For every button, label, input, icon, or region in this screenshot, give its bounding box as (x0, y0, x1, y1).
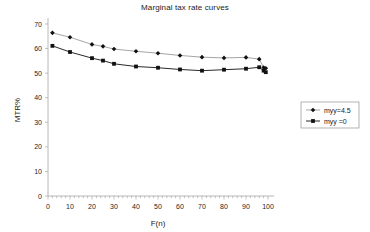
x-tick-label: 70 (198, 203, 206, 210)
chart-figure: Marginal tax rate curves 010203040506070… (0, 0, 370, 232)
legend-swatch-marker (311, 119, 315, 123)
y-axis-title: MTR% (13, 98, 22, 122)
data-point (244, 67, 248, 71)
data-point (257, 57, 262, 62)
x-tick-label: 40 (132, 203, 140, 210)
data-point (222, 68, 226, 72)
x-tick-label: 60 (176, 203, 184, 210)
x-tick-label: 80 (220, 203, 228, 210)
data-point (178, 53, 183, 58)
data-point (134, 65, 138, 69)
data-point (264, 70, 268, 74)
data-point (112, 47, 117, 52)
y-tick-label: 10 (34, 168, 42, 175)
y-tick-label: 70 (34, 21, 42, 28)
data-point (200, 69, 204, 73)
series-2 (51, 44, 268, 74)
x-tick-label: 100 (262, 203, 274, 210)
legend-label: myy =0 (324, 118, 347, 126)
y-tick-label: 50 (34, 70, 42, 77)
x-tick-label: 20 (88, 203, 96, 210)
x-tick-label: 30 (110, 203, 118, 210)
y-axis-title-text: MTR% (13, 98, 22, 122)
data-point (134, 49, 139, 54)
data-point (156, 51, 161, 56)
data-point (90, 56, 94, 60)
data-point (156, 66, 160, 70)
x-tick-label: 50 (154, 203, 162, 210)
data-point (101, 59, 105, 63)
data-point (200, 55, 205, 60)
y-tick-label: 0 (38, 193, 42, 200)
plot-canvas: 0102030405060700102030405060708090100F(n… (0, 0, 370, 232)
data-point (178, 68, 182, 72)
data-point (90, 42, 95, 47)
legend-label: myy=4.5 (324, 107, 351, 115)
data-point (51, 44, 55, 48)
x-axis-title: F(n) (151, 219, 166, 228)
data-point (68, 50, 72, 54)
data-point (222, 56, 227, 61)
series-line-1 (52, 33, 265, 68)
x-tick-label: 0 (46, 203, 50, 210)
legend-layer: myy=4.5myy =0 (301, 102, 359, 128)
x-tick-label: 10 (66, 203, 74, 210)
data-point (257, 65, 261, 69)
series-layer (50, 31, 268, 75)
x-tick-label: 90 (242, 203, 250, 210)
data-point (68, 35, 73, 40)
y-tick-label: 20 (34, 143, 42, 150)
data-point (112, 62, 116, 66)
y-tick-label: 40 (34, 94, 42, 101)
y-tick-label: 60 (34, 45, 42, 52)
data-point (244, 55, 249, 60)
axes-layer: 0102030405060700102030405060708090100F(n… (13, 18, 274, 228)
series-1 (50, 31, 268, 71)
data-point (50, 31, 55, 36)
data-point (101, 44, 106, 49)
y-tick-label: 30 (34, 119, 42, 126)
